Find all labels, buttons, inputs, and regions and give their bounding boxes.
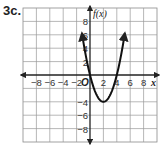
y-tick-label: −4	[77, 97, 88, 108]
x-tick-label: 8	[141, 77, 146, 88]
x-tick-label: −6	[44, 77, 55, 88]
y-tick-label: 8	[83, 16, 88, 27]
x-tick-label: −4	[58, 77, 69, 88]
x-tick-label: −8	[31, 77, 42, 88]
y-tick-label: −8	[77, 124, 88, 135]
x-tick-label: 6	[128, 77, 133, 88]
x-axis-label: x	[150, 77, 156, 88]
origin-label: O	[81, 77, 89, 88]
y-axis-label: f(x)	[93, 8, 108, 20]
chart: xf(x)O−8−6−4−224688642−4−6−8	[0, 0, 165, 148]
x-tick-label: −2	[71, 77, 82, 88]
x-tick-label: 2	[101, 77, 106, 88]
y-tick-label: −6	[77, 110, 88, 121]
